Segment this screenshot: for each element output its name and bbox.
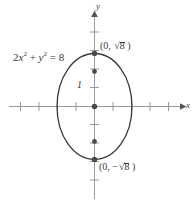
point-label-top-vertex: (0, √8 )	[100, 41, 131, 51]
radical-group-top: √8	[113, 41, 125, 51]
label-close-paren: )	[125, 40, 131, 51]
equation-annotation: 2x2 + y2 = 8	[13, 52, 64, 63]
unit-tick-label: 1	[77, 80, 82, 90]
label-close-paren-neg: )	[129, 161, 135, 172]
point-upper	[92, 69, 97, 74]
coordinate-plane	[0, 0, 195, 204]
radical-group-bottom: √8	[118, 162, 130, 172]
point-origin	[92, 104, 97, 109]
equation-plus: +	[27, 51, 39, 63]
x-axis-label: x	[186, 101, 190, 110]
label-open-paren-neg: (0, −	[99, 161, 118, 172]
point-bottom-vertex	[92, 157, 97, 162]
y-axis-label: y	[96, 2, 100, 11]
point-label-bottom-vertex: (0, −√8 )	[99, 162, 135, 172]
point-lower	[92, 139, 97, 144]
radical-overbar	[120, 42, 125, 43]
point-top-vertex	[92, 51, 97, 56]
label-open-paren: (0,	[100, 40, 113, 51]
math-figure: 2x2 + y2 = 8 (0, √8 ) (0, −√8 ) 1 y x	[0, 0, 195, 204]
equation-equals: =	[47, 51, 59, 63]
equation-rhs: 8	[59, 51, 65, 63]
y-axis-arrow-icon	[91, 11, 98, 18]
radical-overbar	[124, 163, 129, 164]
